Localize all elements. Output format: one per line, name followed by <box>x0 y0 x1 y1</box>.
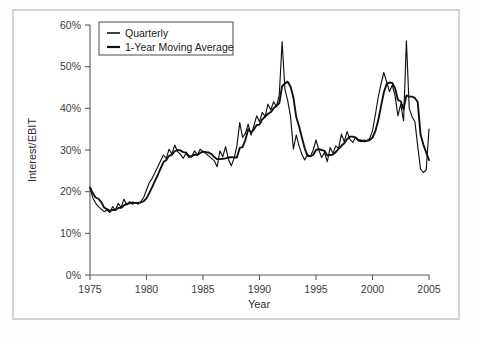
y-tick-label: 0% <box>66 269 81 281</box>
y-tick-label: 60% <box>60 19 81 31</box>
y-tick-label: 50% <box>60 60 81 72</box>
screenshot-root: 0%10%20%30%40%50%60% 1975198019851990199… <box>0 0 480 344</box>
x-axis-title: Year <box>248 298 271 310</box>
legend-label-moving-average: 1-Year Moving Average <box>125 41 234 53</box>
y-tick-label: 20% <box>60 185 81 197</box>
y-tick-label: 40% <box>60 102 81 114</box>
chart-legend: Quarterly 1-Year Moving Average <box>99 22 234 55</box>
figure-frame: 0%10%20%30%40%50%60% 1975198019851990199… <box>12 9 460 320</box>
series-group <box>90 41 429 213</box>
y-tick-label: 30% <box>60 144 81 156</box>
x-tick-label: 2005 <box>417 283 441 295</box>
x-tick-label: 2000 <box>361 283 385 295</box>
x-tick-label: 1990 <box>248 283 272 295</box>
y-tick-group: 0%10%20%30%40%50%60% <box>60 19 90 281</box>
x-tick-label: 1995 <box>304 283 328 295</box>
y-axis-title: Interest/EBIT <box>26 118 38 182</box>
x-tick-label: 1985 <box>191 283 215 295</box>
y-tick-label: 10% <box>60 227 81 239</box>
axes-group <box>90 25 429 275</box>
chart-canvas: 0%10%20%30%40%50%60% 1975198019851990199… <box>14 11 458 318</box>
x-tick-label: 1975 <box>78 283 102 295</box>
series-path-quarterly <box>90 41 429 213</box>
legend-label-quarterly: Quarterly <box>125 27 169 39</box>
x-tick-label: 1980 <box>135 283 159 295</box>
x-tick-group: 1975198019851990199520002005 <box>78 275 441 295</box>
